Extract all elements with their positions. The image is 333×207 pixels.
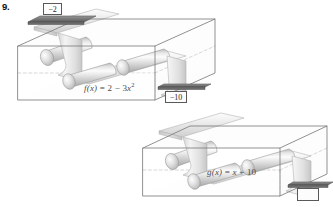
output-value-box[interactable]: [297, 188, 319, 201]
input-value-box[interactable]: −2: [43, 3, 62, 15]
equation-f-operator: −: [112, 83, 122, 93]
equation-g-constant: 10: [247, 167, 256, 177]
equation-g-equals: =: [222, 167, 232, 177]
equation-f-equals: =: [97, 83, 107, 93]
equation-f-variable: (x): [87, 83, 98, 93]
equation-label-f: f(x) = 2 − 3x2: [84, 83, 135, 93]
lower-machine: [143, 113, 333, 196]
equation-g-variable: (x): [212, 167, 223, 177]
function-machine-illustration: [0, 0, 333, 207]
problem-number: 9.: [2, 1, 10, 12]
upper-output-tray: [158, 84, 211, 87]
equation-f-exponent: 2: [131, 81, 134, 88]
lower-output-tray: [288, 182, 333, 185]
intermediate-value-box[interactable]: −10: [165, 91, 187, 103]
function-machine-figure: 9. f(x) = 2 − 3x2 g(x) = x + 10 −2 −10: [0, 0, 333, 207]
upper-output-tray-edge: [158, 87, 205, 90]
equation-label-g: g(x) = x + 10: [207, 167, 256, 177]
equation-g-operator: +: [237, 167, 247, 177]
